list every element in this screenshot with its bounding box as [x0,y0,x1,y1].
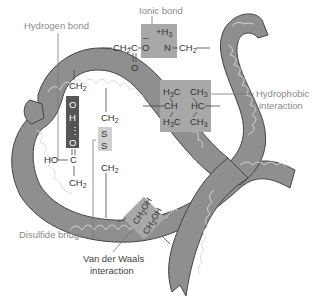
hydrophobic-ch: CH [164,100,178,111]
ionic-carbonyl-o: O [131,62,138,73]
protein-diagram: Ionic bond CH2 C O – O +H3 N CH2 Hydroge… [0,0,320,301]
hbond-o1: O [69,99,76,110]
hbond-ho: HO [44,154,58,165]
disulfide-s2: S [101,140,107,151]
disulfide-group: CH2 S S CH2 [98,88,119,218]
hbond-c: C [70,154,77,165]
disulfide-s1: S [101,128,107,139]
ionic-nitrogen: N [164,42,171,53]
ionic-carbon: C [131,42,138,53]
ionic-bond-label: Ionic bond [139,5,183,16]
hbond-top-ch2: CH2 [69,80,87,92]
ionic-anion-o: O [142,42,149,53]
hydrophobic-hc: HC [191,100,205,111]
hbond-bottom-ch2: CH2 [69,177,87,189]
ribbon-bottom-strand [169,158,248,296]
disulfide-top-ch2: CH2 [101,112,119,124]
hydrophobic-label-line1: Hydrophobic [256,88,310,99]
disulfide-bottom-ch2: CH2 [101,162,119,174]
vdw-label-line1: Van der Waals [83,253,144,264]
hbond-h: H [69,112,76,123]
disulfide-bridge-label: Disulfide bridge [19,229,84,240]
ionic-right-ch2: CH2 [179,42,197,54]
vdw-label-line2: interaction [90,265,134,276]
hbond-dots: ⋮ [70,125,80,136]
hbond-o2: O [69,137,76,148]
hydrophobic-label-line2: interaction [259,100,303,111]
hydrogen-bond-label: Hydrogen bond [24,20,89,31]
